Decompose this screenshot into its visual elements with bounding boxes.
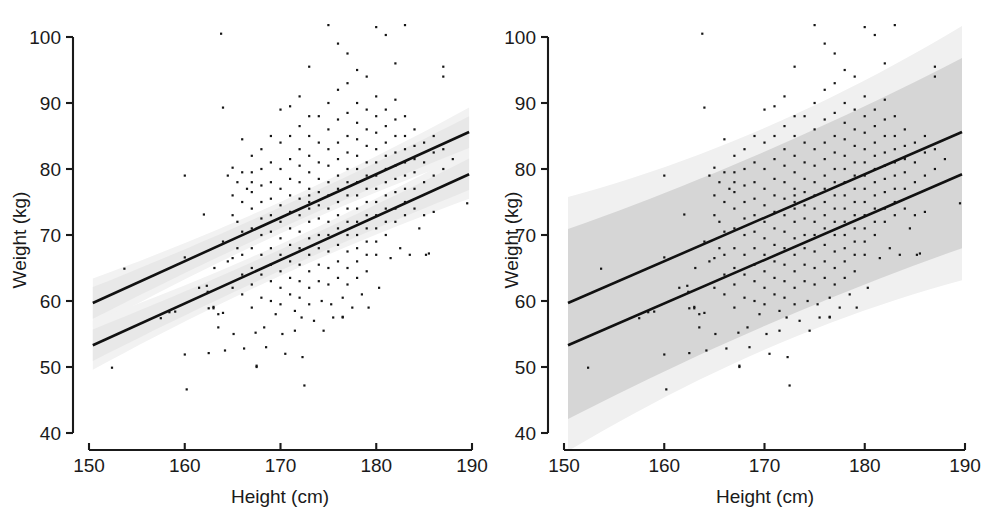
y-axis-title-left: Weight (kg) (9, 192, 30, 289)
axes-left (66, 37, 472, 450)
x-axis-title-right: Height (cm) (716, 486, 814, 507)
x-tick-label: 150 (548, 455, 580, 476)
x-tick-label: 180 (360, 455, 392, 476)
y-tick-label: 60 (515, 291, 536, 312)
x-tick-label: 160 (169, 455, 201, 476)
scatter-plot-left: 405060708090100150160170180190 Height (c… (0, 0, 500, 529)
panel-prediction-band: 405060708090100150160170180190 Height (c… (500, 0, 1000, 529)
y-tick-label: 90 (40, 93, 61, 114)
y-tick-label: 70 (40, 225, 61, 246)
y-tick-label: 80 (40, 159, 61, 180)
x-tick-label: 170 (265, 455, 297, 476)
y-tick-label: 40 (515, 423, 536, 444)
y-tick-label: 80 (515, 159, 536, 180)
y-axis-title-right: Weight (kg) (501, 192, 522, 289)
panel-confidence-band: 405060708090100150160170180190 Height (c… (0, 0, 500, 529)
y-tick-label: 100 (29, 27, 61, 48)
y-tick-label: 50 (40, 357, 61, 378)
tick-labels-left: 405060708090100150160170180190 (29, 27, 488, 477)
x-tick-label: 190 (949, 455, 981, 476)
y-tick-label: 50 (515, 357, 536, 378)
x-tick-label: 160 (648, 455, 680, 476)
y-tick-label: 60 (40, 291, 61, 312)
y-tick-label: 40 (40, 423, 61, 444)
figure-two-panel-regression: 405060708090100150160170180190 Height (c… (0, 0, 1001, 529)
scatter-plot-right: 405060708090100150160170180190 Height (c… (500, 0, 1000, 529)
x-tick-label: 150 (73, 455, 105, 476)
y-tick-label: 100 (504, 27, 536, 48)
x-tick-label: 170 (749, 455, 781, 476)
x-tick-label: 190 (456, 455, 488, 476)
x-axis-title-left: Height (cm) (231, 486, 329, 507)
x-tick-label: 180 (849, 455, 881, 476)
y-tick-label: 90 (515, 93, 536, 114)
